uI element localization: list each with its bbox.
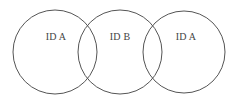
circle-right	[143, 11, 225, 93]
label-right-circle: ID A	[176, 31, 197, 42]
circle-middle	[78, 10, 162, 94]
circle-left	[13, 10, 97, 94]
label-left-circle: ID A	[46, 31, 67, 42]
venn-circles	[0, 0, 235, 102]
label-middle-circle: ID B	[110, 31, 131, 42]
venn-diagram: ID A ID B ID A	[0, 0, 235, 102]
